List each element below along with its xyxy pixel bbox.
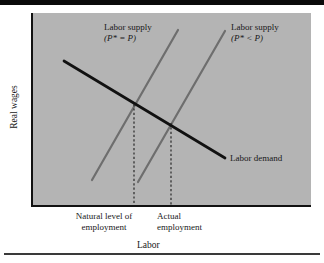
y-axis-label: Real wages (9, 72, 19, 142)
actual-employment-label-line1: Actual (157, 211, 227, 222)
labor-supply-2-line (138, 31, 225, 182)
labor-supply-1-label-line2: (P* = P) (104, 33, 152, 44)
actual-employment-label-line2: employment (157, 222, 227, 233)
labor-demand-label: Labor demand (230, 153, 282, 164)
x-axis-label: Labor (137, 240, 160, 251)
labor-demand-line (64, 61, 225, 158)
labor-supply-2-label-line1: Labor supply (231, 22, 279, 33)
labor-supply-2-label: Labor supply (P* < P) (231, 22, 279, 44)
natural-employment-label: Natural level of employment (62, 211, 146, 233)
labor-supply-2-label-line2: (P* < P) (231, 33, 279, 44)
natural-employment-label-line1: Natural level of (62, 211, 146, 222)
bottom-divider-rule (4, 253, 320, 255)
actual-employment-label: Actual employment (157, 211, 227, 233)
labor-supply-1-label-line1: Labor supply (104, 22, 152, 33)
labor-supply-1-label: Labor supply (P* = P) (104, 22, 152, 44)
natural-employment-label-line2: employment (62, 222, 146, 233)
figure-root: Real wages Labor supply (P* = P) Labor s… (0, 0, 324, 263)
